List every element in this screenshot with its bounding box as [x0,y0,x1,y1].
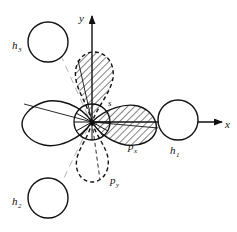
py-label: p y [109,174,120,189]
h2-label: h 2 [12,195,22,210]
px-label-subscript: x [133,147,138,155]
px-label-base: p [127,140,134,152]
y-axis-label: y [78,12,84,24]
h2-label-subscript: 2 [18,202,22,210]
h3-label-subscript: 3 [17,46,22,54]
py-label-subscript: y [115,181,120,189]
h1-label-subscript: 1 [176,151,180,159]
h3-circle [28,22,68,62]
h2-circle [28,178,68,218]
py-label-base: p [109,174,116,186]
orbital-diagram-canvas: y x s p x p y h 1 h 2 [0,0,237,232]
h1-label: h 1 [170,144,180,159]
h1-circle [158,100,198,140]
orbital-overlap-figure: y x s p x p y h 1 h 2 [0,0,237,232]
h3-label: h 3 [12,39,22,54]
s-orbital-label: s [108,98,112,108]
x-axis-label: x [224,118,230,130]
